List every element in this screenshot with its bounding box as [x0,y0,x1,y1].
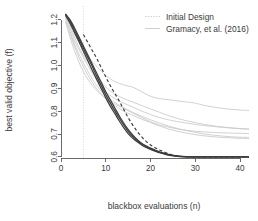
x-tick-label: 10 [101,164,111,173]
x-tick-label: 0 [59,164,64,173]
y-axis-title: best valid objective (f) [4,48,14,131]
y-tick-label: 1.2 [50,14,59,26]
legend-label-initial-design: Initial Design [166,12,214,22]
legend-label-gramacy: Gramacy, et al. (2016) [166,24,249,34]
x-tick-label: 40 [235,164,245,173]
x-tick-label: 20 [146,164,156,173]
chart-figure: 0.60.70.80.91.01.11.2 010203040 blackbox… [0,0,258,221]
y-tick-label: 1.1 [50,36,59,48]
y-tick-label: 0.6 [50,151,59,163]
line-chart: 0.60.70.80.91.01.11.2 010203040 blackbox… [0,0,258,221]
y-tick-label: 0.9 [50,82,59,94]
x-tick-label: 30 [191,164,201,173]
y-tick-label: 0.7 [50,128,59,140]
y-tick-label: 1.0 [50,59,59,71]
y-tick-label: 0.8 [50,105,59,117]
x-axis-title: blackbox evaluations (n) [108,201,201,211]
